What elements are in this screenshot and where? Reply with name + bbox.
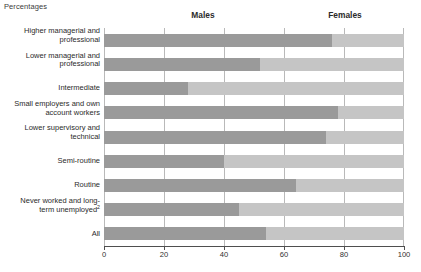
bar-segment-females [338, 106, 404, 119]
x-tick-label-60: 60 [280, 250, 288, 259]
bar-row [104, 82, 404, 95]
bar-segment-males [104, 155, 224, 168]
bar-row [104, 203, 404, 216]
bar-segment-males [104, 82, 188, 95]
category-label: All [0, 230, 100, 239]
bar-rows [104, 28, 404, 246]
bar-segment-females [326, 131, 404, 144]
bar-segment-males [104, 106, 338, 119]
x-axis-line [104, 246, 405, 247]
bar-row [104, 179, 404, 192]
category-label: Small employers and ownaccount workers [0, 100, 100, 117]
bar-segment-females [239, 203, 404, 216]
plot-area [104, 28, 404, 246]
bar-segment-females [266, 227, 404, 240]
bar-row [104, 155, 404, 168]
category-label: Lower supervisory andtechnical [0, 124, 100, 141]
bar-row [104, 106, 404, 119]
bar-segment-females [224, 155, 404, 168]
bar-segment-females [260, 58, 404, 71]
legend-label-females: Females [328, 10, 362, 20]
bar-segment-males [104, 227, 266, 240]
category-label: Higher managerial andprofessional [0, 27, 100, 44]
category-label: Lower managerial andprofessional [0, 52, 100, 69]
category-axis-labels: Higher managerial andprofessionalLower m… [0, 28, 100, 246]
category-label: Never worked and long-term unemployed2 [0, 197, 100, 214]
bar-segment-males [104, 131, 326, 144]
stacked-bar-chart: Percentages Males Females Higher manager… [0, 0, 421, 272]
bar-segment-males [104, 34, 332, 47]
bar-segment-males [104, 179, 296, 192]
x-tick-label-40: 40 [220, 250, 228, 259]
category-label: Intermediate [0, 84, 100, 93]
x-tick-label-100: 100 [398, 250, 411, 259]
bar-segment-females [296, 179, 404, 192]
chart-footnote [4, 263, 414, 272]
series-legend: Males Females [0, 10, 421, 22]
bar-segment-females [332, 34, 404, 47]
bar-row [104, 34, 404, 47]
bar-segment-males [104, 58, 260, 71]
bar-row [104, 227, 404, 240]
bar-segment-males [104, 203, 239, 216]
x-tick-label-20: 20 [160, 250, 168, 259]
legend-label-males: Males [191, 10, 214, 20]
x-tick-label-80: 80 [340, 250, 348, 259]
category-label: Semi-routine [0, 157, 100, 166]
bar-row [104, 131, 404, 144]
category-label: Routine [0, 181, 100, 190]
x-tick-label-0: 0 [102, 250, 106, 259]
bar-row [104, 58, 404, 71]
bar-segment-females [188, 82, 404, 95]
